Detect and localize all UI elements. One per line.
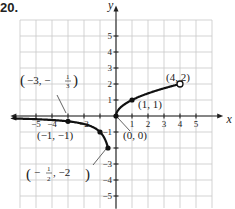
x-tick-label: 3 [162, 119, 167, 129]
svg-text:2: 2 [47, 175, 51, 183]
y-tick-label: 2 [108, 79, 113, 89]
x-tick-label: 5 [194, 119, 199, 129]
y-tick-label: 3 [108, 63, 113, 73]
label-neg1-neg1: (−1, −1) [37, 129, 74, 142]
closed-point [65, 119, 70, 124]
y-tick-label: −3 [102, 159, 112, 169]
x-tick-label: 2 [146, 119, 151, 129]
svg-text:1: 1 [66, 73, 70, 81]
svg-text:): ) [73, 72, 78, 89]
y-tick-label: 1 [108, 95, 113, 105]
y-axis-label: y [107, 0, 114, 12]
closed-point [129, 97, 134, 102]
graph: −5−4−21234554321−1−3−4−5xy (4, 2)(1, 1)(… [0, 0, 235, 209]
svg-text:−: − [34, 166, 40, 178]
svg-text:): ) [85, 166, 90, 183]
label-neg3-neg1third: (−3, −13) [20, 72, 78, 90]
label-0-0: (0, 0) [123, 129, 147, 142]
label-1-1: (1, 1) [138, 98, 162, 111]
closed-point [113, 113, 118, 118]
svg-text:(: ( [20, 72, 25, 89]
y-tick-label: 5 [108, 31, 113, 41]
x-tick-label: 1 [130, 119, 135, 129]
svg-text:, −2: , −2 [53, 166, 70, 178]
x-tick-label: −5 [31, 119, 41, 129]
svg-text:1: 1 [47, 165, 51, 173]
y-tick-label: 4 [108, 47, 113, 57]
label-4-2: (4, 2) [166, 71, 190, 84]
svg-text:3: 3 [66, 82, 70, 90]
svg-text:(: ( [26, 166, 31, 183]
y-tick-label: −5 [102, 191, 112, 201]
svg-text:−3, −: −3, − [27, 74, 50, 86]
x-tick-label: 4 [178, 119, 183, 129]
closed-point [105, 145, 110, 150]
x-axis-label: x [225, 112, 232, 126]
closed-point [97, 129, 102, 134]
y-tick-label: −4 [102, 175, 112, 185]
